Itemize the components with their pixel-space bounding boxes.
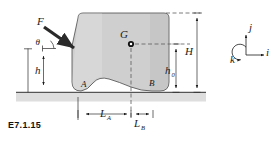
theta-arc xyxy=(51,41,55,49)
contact-label-B: B xyxy=(149,78,155,88)
centroid-label-G: G xyxy=(120,28,128,40)
h0-label-sub: 0 xyxy=(172,71,176,78)
ground-band xyxy=(16,93,206,102)
figure-container: F θ h G A B h 0 H L xyxy=(0,0,276,141)
unit-vector-j-label: j xyxy=(247,21,252,33)
unit-vector-k-label: k xyxy=(230,53,236,65)
figure-id-label: E7.1.15 xyxy=(8,120,41,130)
H-label: H xyxy=(184,45,194,57)
mechanics-diagram: F θ h G A B h 0 H L xyxy=(0,0,276,141)
theta-label: θ xyxy=(36,37,41,47)
h-label: h xyxy=(35,64,41,76)
force-label: F xyxy=(36,15,44,27)
unit-vector-triad: j i k xyxy=(230,21,269,65)
h0-label: h xyxy=(165,64,171,76)
unit-vector-i-label: i xyxy=(266,46,269,58)
contact-label-A: A xyxy=(80,79,87,89)
LB-label-sub: B xyxy=(141,124,145,131)
LA-label: L xyxy=(99,107,106,119)
centroid-marker-inner xyxy=(130,43,133,46)
LB-label: L xyxy=(133,117,140,129)
force-arrow-F xyxy=(44,27,74,48)
LA-label-sub: A xyxy=(106,114,111,121)
